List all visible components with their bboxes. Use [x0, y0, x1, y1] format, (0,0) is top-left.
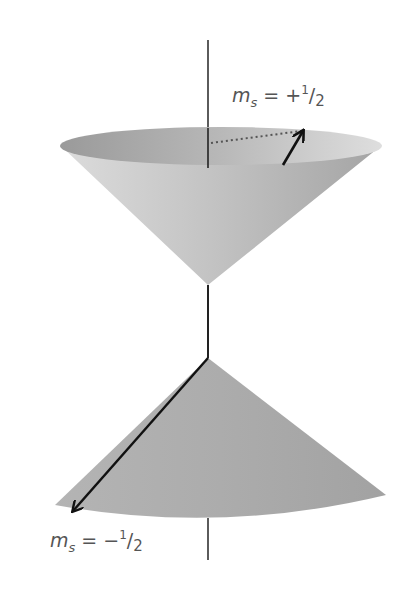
spin-up-symbol: m	[232, 84, 251, 106]
spin-up-numerator: 1	[301, 83, 309, 97]
spin-up-label: ms = +1/2	[232, 86, 325, 105]
spin-down-subscript: s	[69, 540, 76, 555]
spin-up-subscript: s	[251, 95, 258, 110]
spin-down-label: ms = −1/2	[50, 531, 143, 550]
lower-cone-body	[55, 358, 386, 518]
spin-down-symbol: m	[50, 529, 69, 551]
spin-up-denominator: 2	[315, 92, 325, 110]
spin-down-equals: = −	[75, 529, 119, 551]
spin-down-numerator: 1	[119, 528, 127, 542]
spin-down-denominator: 2	[133, 537, 143, 555]
upper-cone-cap	[60, 127, 382, 165]
upper-cone-body	[60, 145, 382, 285]
spin-up-equals: = +	[257, 84, 301, 106]
spin-cone-diagram	[0, 0, 411, 604]
